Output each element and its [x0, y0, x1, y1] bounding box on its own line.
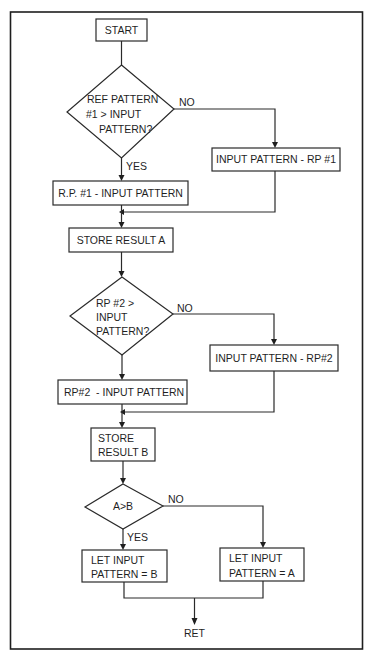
arrowhead-icon: [119, 222, 125, 228]
ret-label: RET: [184, 627, 206, 639]
decision2-line1: RP #2 >: [96, 297, 134, 309]
decision1-yes-label: YES: [126, 160, 147, 172]
proc-input-minus-rp1-label: INPUT PATTERN - RP #1: [216, 153, 336, 165]
arrowhead-icon: [119, 422, 125, 428]
arrowhead-icon: [119, 271, 125, 277]
arrowhead-icon: [272, 142, 278, 148]
decision1-line1: REF PATTERN: [87, 93, 158, 105]
proc-input-minus-rp1: INPUT PATTERN - RP #1: [212, 148, 340, 171]
arrowhead-icon: [260, 542, 266, 548]
store-b-line2: RESULT B: [98, 446, 148, 458]
let-a-line2: PATTERN = A: [229, 567, 295, 579]
proc-rp2-minus-input: RP#2 - INPUT PATTERN: [58, 380, 187, 404]
let-pattern-a: LET INPUT PATTERN = A: [220, 548, 304, 581]
let-a-line1: LET INPUT: [229, 552, 283, 564]
store-result-b: STORE RESULT B: [91, 428, 155, 461]
decision-1: REF PATTERN #1 > INPUT PATTERN?: [67, 65, 174, 158]
decision-2: RP #2 > INPUT PATTERN?: [70, 277, 173, 355]
edge-decision2-no: [173, 314, 274, 343]
decision3-yes-label: YES: [127, 531, 148, 543]
edge-merge: [124, 581, 263, 598]
decision-3: A>B: [85, 484, 163, 529]
let-b-line1: LET INPUT: [91, 554, 145, 566]
decision2-line2: INPUT: [96, 311, 128, 323]
store-result-a: STORE RESULT A: [69, 228, 173, 252]
decision3-label: A>B: [113, 500, 133, 512]
decision2-line3: PATTERN?: [96, 325, 149, 337]
decision3-no-label: NO: [168, 493, 184, 505]
proc-rp1-minus-input-label: R.P. #1 - INPUT PATTERN: [58, 187, 183, 199]
start-label: START: [105, 24, 139, 36]
decision1-line2: #1 > INPUT: [86, 108, 142, 120]
arrowhead-icon: [120, 544, 126, 550]
store-a-label: STORE RESULT A: [77, 234, 166, 246]
proc-rp2-minus-input-label: RP#2 - INPUT PATTERN: [64, 386, 184, 398]
store-b-line1: STORE: [98, 432, 134, 444]
edge-decision1-no: [174, 109, 275, 146]
decision1-no-label: NO: [179, 96, 195, 108]
decision1-line3: PATTERN?: [99, 123, 152, 135]
edge-decision3-no: [163, 506, 263, 546]
proc-input-minus-rp2-label: INPUT PATTERN - RP#2: [215, 352, 332, 364]
arrowhead-icon: [271, 339, 277, 345]
arrowhead-icon: [119, 374, 125, 380]
flowchart: START REF PATTERN #1 > INPUT PATTERN? NO…: [0, 0, 372, 655]
start-node: START: [96, 19, 147, 41]
arrowhead-icon: [192, 618, 198, 625]
decision2-no-label: NO: [177, 302, 193, 314]
proc-rp1-minus-input: R.P. #1 - INPUT PATTERN: [53, 181, 188, 205]
let-b-line2: PATTERN = B: [91, 568, 157, 580]
arrowhead-icon: [120, 478, 126, 484]
let-pattern-b: LET INPUT PATTERN = B: [82, 550, 167, 582]
proc-input-minus-rp2: INPUT PATTERN - RP#2: [210, 345, 338, 371]
arrowhead-icon: [119, 175, 125, 181]
